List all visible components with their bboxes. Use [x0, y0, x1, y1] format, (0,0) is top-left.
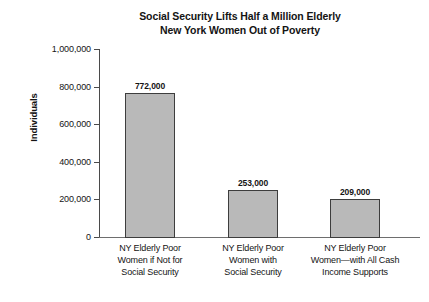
bar-2[interactable]: 209,000 [330, 199, 380, 238]
y-tick-label: 1,000,000 [52, 44, 91, 54]
y-axis-line [99, 49, 100, 238]
category-label-line: NY Elderly Poor [291, 242, 419, 254]
plot-area: 1,000,000 800,000 600,000 400,000 200,00… [99, 47, 420, 238]
bar-value-label: 772,000 [135, 81, 165, 91]
y-tick-label: 0 [86, 232, 91, 242]
category-label-line: Income Supports [291, 266, 419, 278]
bar-1[interactable]: 253,000 [228, 190, 278, 238]
chart-title-line-2: New York Women Out of Poverty [60, 24, 420, 38]
y-tick-label: 800,000 [59, 82, 91, 92]
bar-value-label: 209,000 [340, 187, 370, 197]
y-tick-mark [94, 124, 99, 125]
bar-chart: Social Security Lifts Half a Million Eld… [0, 0, 429, 302]
y-tick-label: 200,000 [59, 194, 91, 204]
chart-title: Social Security Lifts Half a Million Eld… [60, 10, 420, 37]
y-tick-label: 600,000 [59, 119, 91, 129]
bar-0[interactable]: 772,000 [125, 93, 175, 238]
bar-value-label: 253,000 [238, 178, 268, 188]
category-label-2: NY Elderly Poor Women—with All Cash Inco… [291, 242, 419, 278]
category-label-line: Women—with All Cash [291, 254, 419, 266]
y-tick-label: 400,000 [59, 157, 91, 167]
y-tick-mark [94, 237, 99, 238]
y-tick-mark [94, 87, 99, 88]
y-axis-title: Individuals [28, 78, 39, 158]
y-tick-mark [94, 162, 99, 163]
y-tick-mark [94, 199, 99, 200]
chart-title-line-1: Social Security Lifts Half a Million Eld… [60, 10, 420, 24]
y-tick-mark [94, 49, 99, 50]
